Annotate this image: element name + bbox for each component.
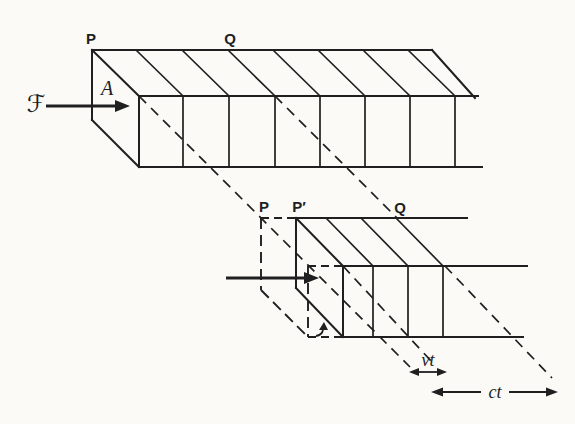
lower-bar-front-face-divisions	[373, 266, 443, 337]
small-displacement-arrow	[316, 322, 328, 336]
small-displacement-arrow-tail	[316, 330, 323, 336]
wave-compression-figure: P Q ℱ A P P′ Q vt ct	[0, 0, 575, 424]
upper-point-q-label: Q	[224, 30, 236, 47]
lower-point-p-label: P	[259, 198, 269, 215]
force-arrow-head	[115, 100, 130, 112]
lower-bar-end-top-slant	[296, 218, 343, 266]
upper-bar-front-face-divisions	[183, 96, 455, 167]
upper-bar-cut-slant	[432, 50, 475, 98]
ct-arrow-left-head	[431, 388, 443, 397]
lower-point-p-prime-label: P′	[292, 198, 306, 215]
upper-point-p-label: P	[86, 30, 96, 47]
upper-bar-end-top-slant	[92, 50, 139, 96]
small-displacement-arrow-head	[319, 322, 328, 330]
dashed-box-bottom-slant	[261, 290, 308, 337]
vt-arrow-right-head	[437, 368, 447, 376]
ct-arrow-right-head	[546, 388, 558, 397]
lower-point-q-label: Q	[394, 199, 406, 216]
area-symbol-label: A	[99, 77, 114, 99]
upper-bar-end-bottom-slant	[92, 120, 139, 167]
force-arrow	[46, 100, 130, 112]
lower-bar-top-face-divisions	[326, 218, 443, 266]
force-symbol-label: ℱ	[27, 90, 46, 118]
upper-bar-top-face-divisions	[136, 50, 455, 96]
ct-label: ct	[489, 382, 503, 402]
projection-line-q-lower	[445, 266, 552, 378]
piston-arrow	[226, 272, 319, 284]
vt-arrow-left-head	[409, 368, 419, 376]
piston-arrow-head	[304, 272, 319, 284]
lower-bar	[296, 218, 527, 337]
vt-label: vt	[422, 350, 436, 370]
